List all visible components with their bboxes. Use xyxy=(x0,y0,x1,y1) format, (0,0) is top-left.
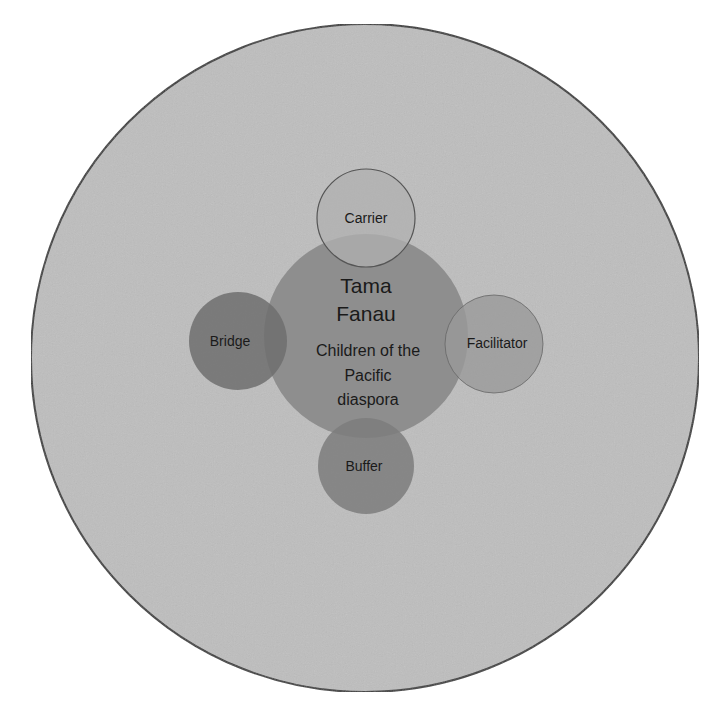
diagram: Tama Fanau Children of the Pacific diasp… xyxy=(0,0,728,711)
role-label-facilitator: Facilitator xyxy=(467,335,528,351)
center-subtitle-line-1: Children of the xyxy=(316,342,420,359)
role-label-bridge: Bridge xyxy=(210,333,251,349)
role-label-buffer: Buffer xyxy=(345,458,382,474)
center-subtitle-line-2: Pacific xyxy=(344,367,391,384)
center-title-line-2: Fanau xyxy=(336,302,396,325)
center-title-line-1: Tama xyxy=(340,274,392,297)
role-label-carrier: Carrier xyxy=(345,210,388,226)
center-subtitle-line-3: diaspora xyxy=(337,391,398,408)
